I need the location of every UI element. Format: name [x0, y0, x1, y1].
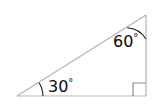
triangle-hypotenuse-side	[17, 15, 146, 96]
right-angle-marker	[133, 83, 146, 96]
angle-label-60-degree-symbol: °	[133, 32, 138, 43]
angle-label-60: 60°	[113, 33, 138, 50]
geometry-figure: 30° 60°	[0, 0, 159, 109]
angle-label-60-value: 60	[113, 32, 133, 51]
triangle-drawing	[0, 0, 159, 109]
angle-arc-30	[39, 83, 43, 96]
angle-label-30-degree-symbol: °	[68, 77, 73, 88]
angle-label-30-value: 30	[48, 77, 68, 96]
angle-label-30: 30°	[48, 78, 73, 95]
